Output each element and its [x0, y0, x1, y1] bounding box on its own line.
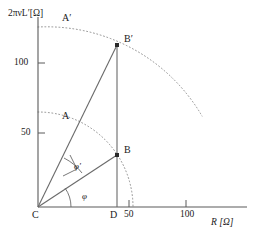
y-axis-label: 2πνL′[Ω] — [8, 9, 43, 19]
x-tick-label-100: 100 — [180, 210, 194, 220]
point-label-b-prime: B′ — [124, 34, 133, 44]
y-tick-label-100: 100 — [14, 58, 28, 68]
point-label-a: A — [62, 111, 69, 121]
angle-label-phi: φ — [82, 192, 87, 201]
point-label-c: C — [32, 210, 39, 220]
point-b-marker — [115, 153, 119, 157]
impedance-phasor-diagram: 2πνL′[Ω] R [Ω] 50 100 50 100 C D A A′ B … — [0, 0, 255, 238]
angle-label-phi-prime: φ′ — [74, 162, 81, 171]
point-label-a-prime: A′ — [62, 13, 71, 23]
point-label-b: B — [124, 145, 131, 155]
point-b-prime-marker — [115, 43, 119, 47]
angle-arc-phi — [65, 188, 71, 207]
x-axis-label: R [Ω] — [211, 218, 233, 228]
y-tick-label-50: 50 — [21, 128, 31, 138]
outer-dotted-arc — [38, 27, 202, 116]
point-label-d: D — [110, 210, 117, 220]
line-c-b-prime — [38, 45, 117, 207]
x-tick-label-50: 50 — [124, 210, 134, 220]
